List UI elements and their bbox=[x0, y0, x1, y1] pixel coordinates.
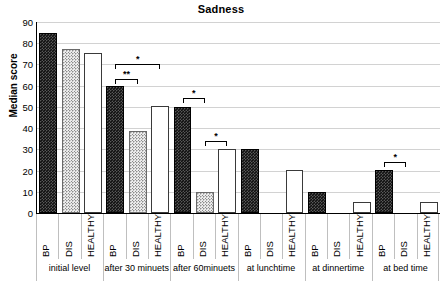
bracket-line bbox=[384, 162, 406, 163]
x-tick-label-healthy-3: HEALTHY bbox=[286, 214, 297, 257]
group-separator bbox=[238, 259, 239, 281]
bracket-line bbox=[115, 64, 160, 65]
group-label-0: initial level bbox=[36, 263, 103, 273]
bar-healthy-5 bbox=[420, 202, 438, 213]
plot-area: 0102030405060708090 ****** bbox=[36, 22, 440, 214]
bar-bp-3 bbox=[241, 149, 259, 213]
x-tick-label-dis-0: DIS bbox=[63, 241, 74, 257]
y-tick-label-80: 80 bbox=[22, 38, 33, 49]
x-tick-label-bp-3: BP bbox=[242, 244, 253, 257]
y-axis-label: Median score bbox=[8, 41, 19, 131]
x-axis-group-labels: initial levelafter 30 minuetsafter 60min… bbox=[36, 259, 439, 281]
x-axis-separator bbox=[103, 214, 104, 259]
bar-bp-1 bbox=[106, 86, 124, 213]
bar-healthy-4 bbox=[353, 202, 371, 213]
x-tick-label-dis-5: DIS bbox=[398, 241, 409, 257]
x-axis-separator bbox=[260, 214, 261, 259]
group-separator bbox=[372, 259, 373, 281]
group-label-2: after 60minuets bbox=[170, 263, 237, 273]
group-label-5: at bed time bbox=[372, 263, 439, 273]
bracket-tick-right bbox=[405, 162, 406, 167]
x-axis-separator bbox=[58, 214, 59, 259]
group-separator bbox=[103, 259, 104, 281]
x-tick-label-healthy-1: HEALTHY bbox=[152, 214, 163, 257]
x-axis-separator bbox=[327, 214, 328, 259]
group-separator bbox=[438, 259, 439, 281]
significance-star: * bbox=[115, 55, 160, 64]
bracket-tick-left bbox=[205, 141, 206, 146]
x-axis-subcategory-labels: BPDISHEALTHYBPDISHEALTHYBPDISHEALTHYBPDI… bbox=[36, 214, 439, 259]
significance-star: ** bbox=[115, 70, 137, 79]
significance-star: * bbox=[384, 153, 406, 162]
bracket-line bbox=[183, 98, 205, 99]
bar-dis-2 bbox=[196, 192, 214, 213]
group-separator bbox=[36, 259, 37, 281]
x-tick-label-bp-5: BP bbox=[376, 244, 387, 257]
y-tick-label-90: 90 bbox=[22, 17, 33, 28]
x-axis-separator bbox=[170, 214, 171, 259]
bar-bp-4 bbox=[308, 192, 326, 213]
bracket-tick-left bbox=[115, 64, 116, 69]
bracket-tick-right bbox=[137, 79, 138, 84]
x-axis-separator bbox=[438, 214, 439, 259]
x-tick-label-dis-2: DIS bbox=[197, 241, 208, 257]
bar-healthy-1 bbox=[151, 106, 169, 213]
y-tick-label-20: 20 bbox=[22, 165, 33, 176]
bracket-tick-right bbox=[204, 98, 205, 103]
y-tick-label-40: 40 bbox=[22, 123, 33, 134]
x-axis-separator bbox=[215, 214, 216, 259]
x-axis-separator bbox=[282, 214, 283, 259]
x-axis-separator bbox=[126, 214, 127, 259]
x-tick-label-healthy-5: HEALTHY bbox=[421, 214, 432, 257]
group-label-1: after 30 minuets bbox=[103, 263, 170, 273]
bar-bp-2 bbox=[174, 107, 192, 213]
y-tick-label-60: 60 bbox=[22, 80, 33, 91]
y-tick-label-30: 30 bbox=[22, 144, 33, 155]
x-axis-separator bbox=[148, 214, 149, 259]
bar-healthy-0 bbox=[84, 53, 102, 213]
bracket-tick-left bbox=[183, 98, 184, 103]
group-separator bbox=[170, 259, 171, 281]
bar-dis-1 bbox=[129, 131, 147, 213]
x-axis-separator bbox=[193, 214, 194, 259]
bracket-tick-left bbox=[384, 162, 385, 167]
bracket-tick-right bbox=[226, 141, 227, 146]
x-axis-separator bbox=[394, 214, 395, 259]
bracket-tick-left bbox=[115, 79, 116, 84]
x-tick-label-healthy-4: HEALTHY bbox=[354, 214, 365, 257]
bracket-line bbox=[205, 141, 227, 142]
chart-title: Sadness bbox=[0, 3, 442, 15]
bar-healthy-2 bbox=[218, 149, 236, 213]
x-tick-label-bp-0: BP bbox=[40, 244, 51, 257]
x-axis-separator bbox=[417, 214, 418, 259]
x-tick-label-healthy-2: HEALTHY bbox=[219, 214, 230, 257]
y-tick-label-70: 70 bbox=[22, 59, 33, 70]
x-tick-label-bp-2: BP bbox=[175, 244, 186, 257]
group-label-3: at lunchtime bbox=[238, 263, 305, 273]
group-label-4: at dinnertime bbox=[305, 263, 372, 273]
y-tick-label-50: 50 bbox=[22, 101, 33, 112]
bar-bp-0 bbox=[39, 33, 57, 213]
bar-healthy-3 bbox=[286, 170, 304, 214]
x-axis-separator bbox=[305, 214, 306, 259]
x-tick-label-bp-1: BP bbox=[107, 244, 118, 257]
x-axis-separator bbox=[81, 214, 82, 259]
x-axis-separator bbox=[372, 214, 373, 259]
significance-star: * bbox=[183, 89, 205, 98]
bar-dis-0 bbox=[62, 49, 80, 213]
x-tick-label-bp-4: BP bbox=[309, 244, 320, 257]
y-tick-label-0: 0 bbox=[28, 208, 33, 219]
bracket-tick-right bbox=[159, 64, 160, 69]
bar-bp-5 bbox=[375, 170, 393, 214]
x-tick-label-dis-3: DIS bbox=[264, 241, 275, 257]
x-tick-label-dis-1: DIS bbox=[130, 241, 141, 257]
x-tick-label-healthy-0: HEALTHY bbox=[85, 214, 96, 257]
x-axis-separator bbox=[238, 214, 239, 259]
bracket-line bbox=[115, 79, 137, 80]
bar-series-layer bbox=[37, 22, 440, 213]
x-axis-separator bbox=[36, 214, 37, 259]
chart-figure: Sadness Median score 0102030405060708090… bbox=[0, 0, 442, 285]
significance-star: * bbox=[205, 132, 227, 141]
y-tick-label-10: 10 bbox=[22, 186, 33, 197]
x-axis-separator bbox=[349, 214, 350, 259]
